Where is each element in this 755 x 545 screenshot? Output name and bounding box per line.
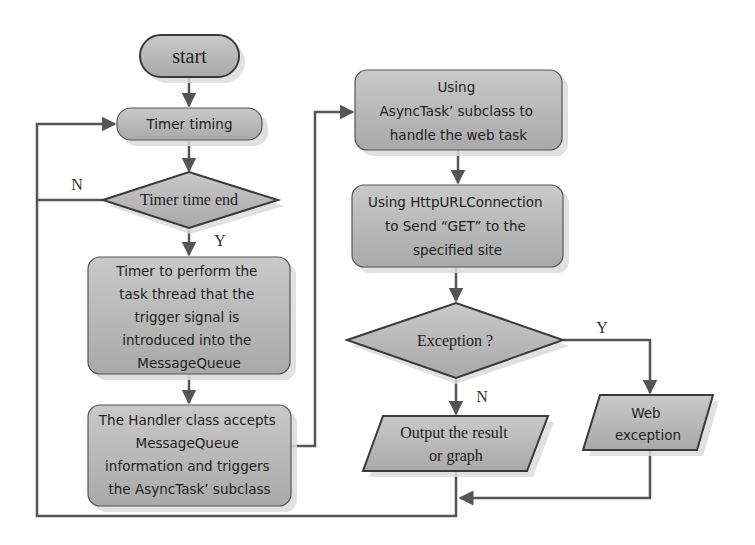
node-start-label: start (172, 45, 207, 67)
node-timer-task: Timer to perform the task thread that th… (88, 257, 290, 374)
flowchart-canvas: start Timer timing Timer time end Timer … (0, 0, 755, 545)
node-timer-end-decision: Timer time end (103, 172, 278, 228)
node-exception-decision: Exception ? (347, 303, 563, 378)
edge-handler-to-asynctask (291, 112, 353, 446)
edge-exception-yes (563, 340, 650, 393)
edge-label-exception-no: N (476, 388, 488, 405)
node-asynctask: Using AsyncTask’ subclass to handle the … (355, 70, 562, 150)
node-handler: The Handler class accepts MessageQueue i… (88, 405, 291, 506)
edge-label-timer-end-yes: Y (214, 232, 226, 249)
node-timer-timing: Timer timing (117, 108, 262, 140)
node-web-exception: Web exception (583, 395, 713, 450)
node-http-get: Using HttpURLConnection to Send “GET” to… (352, 185, 563, 267)
node-exception-label: Exception ? (417, 332, 493, 350)
edge-label-timer-end-no: N (71, 176, 83, 193)
node-timer-end-label: Timer time end (140, 191, 238, 208)
edge-label-exception-yes: Y (596, 319, 608, 336)
node-start: start (140, 35, 239, 77)
node-timer-timing-label: Timer timing (146, 116, 233, 132)
node-output: Output the result or graph (363, 416, 548, 471)
